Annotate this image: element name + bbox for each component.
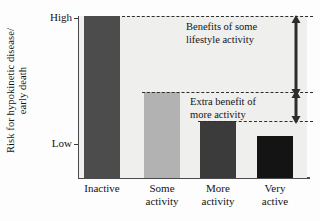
annotation-extra-line2: more activity — [190, 109, 246, 120]
annotation-benefits-line2: lifestyle activity — [186, 34, 254, 45]
annotation-benefits-of-some-lifestyle-activity: Benefits of some lifestyle activity — [186, 21, 257, 46]
x-tick-label-more-activity-line1: More — [206, 182, 230, 194]
annotation-benefits-line1: Benefits of some — [186, 21, 257, 32]
reference-line-top — [122, 16, 313, 17]
bar-very-active — [257, 136, 293, 178]
bar-some-activity — [144, 92, 180, 178]
x-tick-label-inactive-line1: Inactive — [84, 182, 119, 194]
bar-chart-figure: Risk for hypokinetic disease/ early deat… — [0, 0, 320, 221]
annotation-extra-line1: Extra benefit of — [190, 96, 256, 107]
double-arrow-extra-benefit-icon — [288, 89, 304, 125]
double-arrow-benefits-icon — [288, 14, 304, 98]
y-axis-label-line1: Risk for hypokinetic disease/ — [6, 27, 17, 152]
y-axis-label-line2: early death — [17, 27, 29, 152]
bar-inactive — [84, 16, 120, 178]
y-axis-label: Risk for hypokinetic disease/ early deat… — [0, 0, 34, 180]
y-tick-label-high: High — [20, 11, 72, 23]
bar-more-activity — [200, 121, 236, 178]
x-tick-label-very-active: Very active — [235, 182, 315, 208]
x-tick-label-some-activity-line1: Some — [149, 182, 174, 194]
x-tick-label-very-active-line2: active — [235, 195, 315, 208]
x-tick-label-very-active-line1: Very — [265, 182, 286, 194]
annotation-extra-benefit-of-more-activity: Extra benefit of more activity — [190, 96, 256, 121]
y-tick-label-low: Low — [20, 137, 72, 149]
